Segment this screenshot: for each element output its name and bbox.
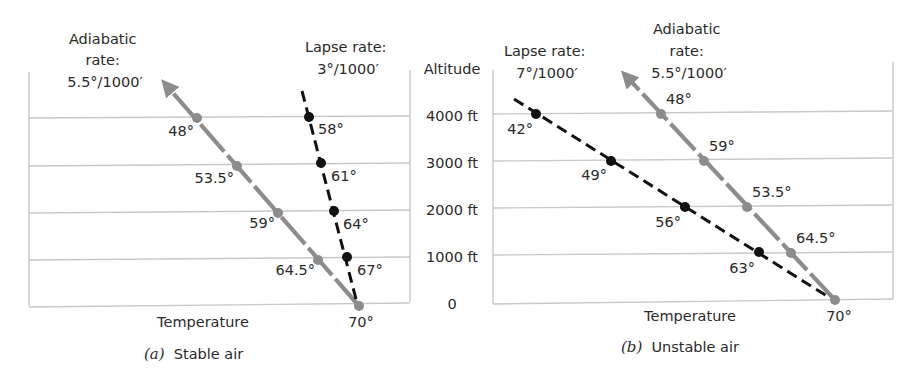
panel-b-lapse-title: Lapse rate: 7°/1000′	[504, 43, 590, 81]
panel-b-lapse-label-4000: 42°	[507, 121, 533, 137]
panel-a-adiabatic-title: Adiabatic rate: 5.5°/1000′	[67, 31, 142, 90]
panel-a-stable-air: Adiabatic rate: 5.5°/1000′ Lapse rate: 3…	[29, 31, 410, 363]
panel-a-lapse-label-4000: 58°	[318, 121, 344, 137]
panel-a-adiabatic-label-3000: 53.5°	[194, 170, 234, 186]
panel-b-adiabatic-label-4000: 48°	[666, 91, 692, 107]
altitude-tick-1000: 1000 ft	[426, 249, 478, 265]
panel-b-lapse-label-2000: 56°	[655, 214, 681, 230]
altitude-tick-4000: 4000 ft	[426, 108, 478, 124]
altitude-axis: Altitude 4000 ft 3000 ft 2000 ft 1000 ft…	[424, 61, 481, 312]
panel-b-adiabatic-label-0: 70°	[826, 308, 852, 324]
panel-a-lapse-title: Lapse rate: 3°/1000′	[305, 39, 391, 77]
altitude-axis-title: Altitude	[424, 61, 481, 77]
panel-b-adiabatic-label-3000: 59°	[709, 138, 735, 154]
panel-b-lapse-label-1000: 63°	[729, 260, 755, 276]
panel-b-grid	[493, 62, 893, 304]
panel-a-lapse-label-2000: 64°	[343, 216, 369, 232]
panel-b-x-axis-label: Temperature	[643, 308, 736, 324]
panel-a-lapse-label-3000: 61°	[331, 168, 357, 184]
panel-a-adiabatic-label-2000: 59°	[249, 215, 275, 231]
altitude-tick-3000: 3000 ft	[426, 155, 478, 171]
panel-b-unstable-air: Lapse rate: 7°/1000′ Adiabatic rate: 5.5…	[493, 21, 893, 356]
panel-a-x-axis-label: Temperature	[156, 314, 249, 330]
panel-b-lapse-label-3000: 49°	[581, 167, 607, 183]
panel-b-caption: (b) Unstable air	[621, 337, 739, 356]
panel-b-adiabatic-title: Adiabatic rate: 5.5°/1000′	[651, 21, 726, 81]
panel-a-adiabatic-label-0: 70°	[348, 314, 374, 330]
lapse-rate-diagram: Adiabatic rate: 5.5°/1000′ Lapse rate: 3…	[0, 0, 910, 378]
panel-b-adiabatic-label-2000: 53.5°	[752, 184, 792, 200]
altitude-tick-2000: 2000 ft	[426, 202, 478, 218]
panel-b-adiabatic-label-1000: 64.5°	[796, 230, 836, 246]
panel-a-lapse-label-1000: 67°	[357, 262, 383, 278]
altitude-tick-0: 0	[447, 296, 456, 312]
panel-a-adiabatic-label-4000: 48°	[168, 123, 194, 139]
panel-a-grid	[29, 70, 410, 307]
panel-a-caption: (a) Stable air	[144, 344, 243, 363]
panel-a-adiabatic-label-1000: 64.5°	[275, 262, 315, 278]
